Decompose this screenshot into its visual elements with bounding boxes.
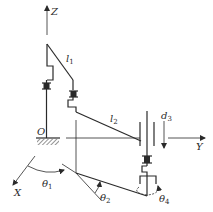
- x-axis-label: X: [13, 187, 22, 198]
- link-l2-label: l2: [110, 113, 118, 126]
- theta1-label: θ1: [42, 178, 53, 191]
- link-l1: l1: [47, 44, 74, 80]
- end-effector: θ4: [137, 176, 170, 206]
- prismatic-joint-d3: d3: [140, 110, 172, 156]
- origin: O: [36, 126, 60, 145]
- robot-diagram: Z l1 l2 O X: [0, 0, 213, 212]
- link-l1-label: l1: [66, 53, 74, 66]
- y-axis: Y: [168, 138, 205, 152]
- z-axis-label: Z: [50, 6, 59, 17]
- y-axis-label: Y: [196, 141, 204, 152]
- wrist-joint: [142, 156, 152, 176]
- ground-hatch: [37, 139, 59, 145]
- z-axis: Z: [47, 6, 59, 35]
- theta2-label: θ2: [100, 192, 111, 205]
- origin-label: O: [37, 126, 45, 137]
- theta1-indicator: θ1: [28, 164, 76, 191]
- theta2-indicator: θ2: [76, 173, 147, 205]
- d3-label: d3: [161, 110, 172, 123]
- link-l2: l2: [76, 112, 141, 141]
- theta4-label: θ4: [159, 193, 170, 206]
- x-axis: X: [13, 156, 35, 198]
- elbow-joint: [68, 80, 78, 112]
